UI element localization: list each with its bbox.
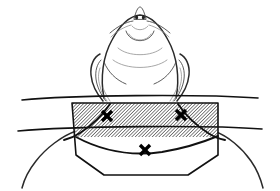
anatomy-figure — [0, 0, 280, 191]
hatched-field — [72, 103, 218, 137]
anatomy-illustration — [0, 0, 280, 191]
nostril-right-icon — [142, 15, 145, 19]
hatched-field-fill — [72, 103, 218, 137]
nostril-left-icon — [135, 15, 138, 19]
